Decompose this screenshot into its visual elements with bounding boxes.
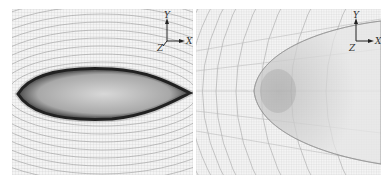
axis-triad-icon: Y X Z: [154, 11, 193, 51]
axis-y-label: Y: [353, 11, 360, 20]
mesh-panel-zoomed-view: Y X Z: [196, 9, 381, 175]
axis-x-label: X: [185, 36, 193, 46]
mesh-panel-full-view: Y X Z: [12, 9, 193, 175]
axis-triad-icon: Y X Z: [343, 11, 381, 51]
axis-y-label: Y: [164, 11, 171, 20]
axis-x-label: X: [374, 36, 381, 46]
axis-z-label: Z: [156, 43, 164, 51]
axis-z-label: Z: [348, 43, 356, 51]
